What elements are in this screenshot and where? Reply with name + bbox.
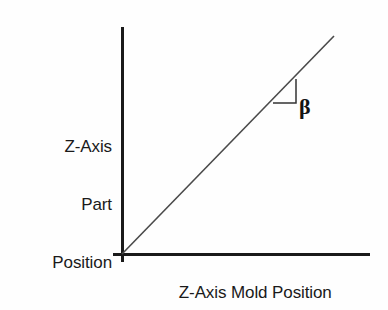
trend-line <box>122 36 334 254</box>
figure-canvas: Z-Axis Part Position Z-Axis Mold Positio… <box>0 0 388 310</box>
x-axis-label: Z-Axis Mold Position <box>0 264 388 310</box>
angle-marker-triangle <box>273 79 296 103</box>
x-axis-label-text: Z-Axis Mold Position <box>179 283 332 302</box>
y-axis-label-line-2: Part <box>52 195 112 214</box>
beta-angle-label: β <box>299 96 311 118</box>
y-axis-label-line-1: Z-Axis <box>52 137 112 156</box>
